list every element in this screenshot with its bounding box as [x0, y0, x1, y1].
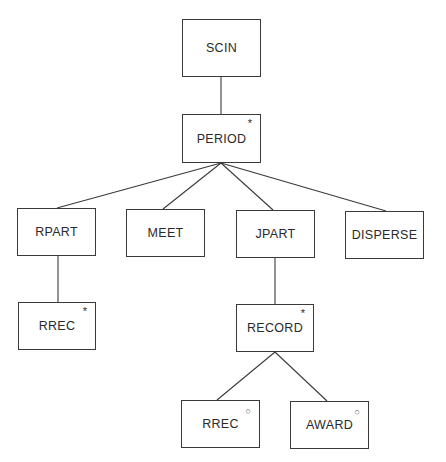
- node-label: RECORD: [247, 321, 303, 335]
- node-period: PERIOD *: [182, 114, 261, 163]
- node-jpart: JPART: [236, 210, 315, 258]
- asterisk-icon: *: [248, 118, 252, 129]
- edge-period-disperse: [221, 163, 386, 211]
- node-label: JPART: [256, 227, 296, 241]
- node-rrec-selection: RREC ○: [181, 400, 260, 448]
- node-disperse: DISPERSE: [345, 211, 424, 259]
- node-rpart: RPART: [17, 208, 96, 256]
- circle-icon: ○: [355, 408, 360, 417]
- node-meet: MEET: [126, 209, 205, 257]
- node-label: DISPERSE: [352, 228, 418, 242]
- asterisk-icon: *: [301, 308, 305, 319]
- node-rrec-iteration: RREC *: [18, 302, 96, 350]
- node-record: RECORD *: [236, 304, 314, 352]
- node-award: AWARD ○: [290, 401, 369, 449]
- node-label: RREC: [202, 417, 239, 431]
- node-label: MEET: [148, 226, 184, 240]
- node-label: AWARD: [306, 418, 353, 432]
- edge-record-award: [275, 352, 327, 401]
- node-scin: SCIN: [182, 19, 261, 77]
- edge-record-rrec: [217, 352, 275, 400]
- circle-icon: ○: [246, 407, 251, 416]
- edge-period-meet: [163, 163, 221, 209]
- node-label: RPART: [35, 225, 78, 239]
- asterisk-icon: *: [83, 306, 87, 317]
- node-label: SCIN: [206, 41, 237, 55]
- node-label: PERIOD: [197, 132, 247, 146]
- edge-period-rpart: [57, 163, 221, 208]
- node-label: RREC: [39, 319, 76, 333]
